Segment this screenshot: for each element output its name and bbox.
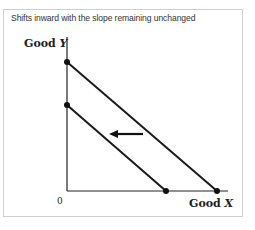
origin-label: 0 [57,196,63,206]
y-axis-label: Good Y [24,37,69,50]
shift-arrow-icon [109,130,143,138]
shifted-x-intercept-dot [163,188,169,194]
original-y-intercept-dot [64,59,70,65]
original-budget-line [67,62,217,191]
shifted-y-intercept-dot [64,102,70,108]
x-axis-label: Good X [189,197,234,210]
shifted-budget-line [67,105,166,191]
original-x-intercept-dot [214,188,220,194]
budget-line-diagram: Good Y Good X 0 [0,0,255,230]
